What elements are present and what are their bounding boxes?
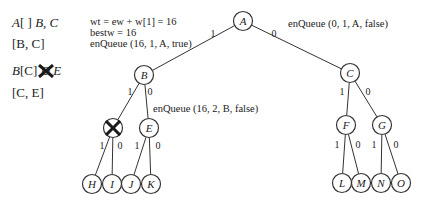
edge-label: 0 [156,140,161,151]
edge-G-N [381,134,382,173]
svg-text:N: N [376,177,385,189]
node-O: O [392,174,411,193]
edge-label: 1 [128,86,133,97]
edge-label: 1 [100,140,105,151]
edge-A-C [252,25,342,69]
node-I: I [103,175,122,194]
edge-label: 0 [356,139,361,150]
edge-A-B [152,26,234,71]
edge-label: 1 [340,86,345,97]
svg-text:E: E [145,122,153,134]
edge-F-L [343,134,346,173]
node-G: G [373,116,392,135]
edge-label: 1 [372,139,377,150]
svg-text:M: M [355,177,366,189]
edge-E-K [149,137,150,174]
node-C: C [341,64,360,83]
svg-text:K: K [146,178,155,190]
svg-text:O: O [397,177,405,189]
svg-text:G: G [378,119,386,131]
edge-label: 0 [394,139,399,150]
node-A: A [234,12,253,31]
svg-text:H: H [87,178,97,190]
edge-label: 0 [148,86,153,97]
edge-label: 1 [135,140,140,151]
node-F: F [337,116,356,135]
node-B: B [135,66,154,85]
edge-C-F [347,82,350,115]
node-H: H [83,175,102,194]
tree-diagram: 10101010101010ABCEFGHIJKLMNO [0,0,428,207]
node-E: E [140,119,159,138]
svg-text:L: L [338,177,345,189]
edge-label: 1 [335,139,340,150]
node-J: J [122,175,141,194]
node-M: M [352,174,371,193]
svg-text:F: F [342,119,350,131]
edge-label: 0 [366,86,371,97]
node-L: L [333,174,352,193]
svg-text:A: A [239,15,247,27]
node-D [104,119,123,138]
edge-label: 0 [272,28,277,39]
svg-text:B: B [141,69,148,81]
node-K: K [142,175,161,194]
edge-label: 0 [118,140,123,151]
edge-D-I [112,137,113,174]
svg-text:C: C [346,67,354,79]
node-N: N [372,174,391,193]
edge-label: 1 [211,28,216,39]
